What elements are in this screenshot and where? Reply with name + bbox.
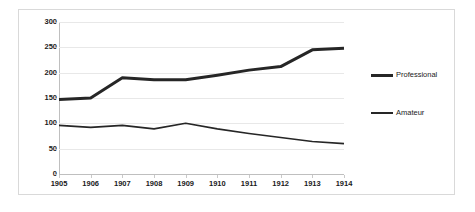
series-lines (59, 22, 344, 174)
x-tick-label-1905: 1905 (44, 180, 74, 188)
x-tick-label-1911: 1911 (234, 180, 264, 188)
x-tick-1914 (344, 175, 345, 178)
x-tick-1912 (281, 175, 282, 178)
x-tick-1911 (249, 175, 250, 178)
y-tick-250 (54, 47, 57, 48)
y-tick-0 (54, 174, 57, 175)
chart-legend: Professional Amateur (371, 70, 451, 146)
x-tick-label-1907: 1907 (107, 180, 137, 188)
x-axis-labels: 1905190619071908190919101911191219131914 (59, 180, 344, 192)
y-tick-200 (54, 73, 57, 74)
x-tick-label-1914: 1914 (329, 180, 359, 188)
y-tick-label-100: 100 (23, 119, 57, 127)
y-tick-100 (54, 123, 57, 124)
legend-label-professional: Professional (396, 71, 437, 79)
y-tick-label-200: 200 (23, 69, 57, 77)
series-line-professional (59, 48, 344, 99)
legend-item-professional: Professional (371, 70, 451, 80)
x-tick-label-1909: 1909 (171, 180, 201, 188)
y-tick-label-250: 250 (23, 43, 57, 51)
x-tick-label-1908: 1908 (139, 180, 169, 188)
x-tick-1906 (91, 175, 92, 178)
legend-item-amateur: Amateur (371, 108, 451, 118)
x-tick-1908 (154, 175, 155, 178)
x-tick-1910 (217, 175, 218, 178)
chart-container: 050100150200250300 190519061907190819091… (18, 9, 455, 195)
x-tick-1909 (186, 175, 187, 178)
x-tick-label-1912: 1912 (266, 180, 296, 188)
x-tick-1905 (59, 175, 60, 178)
y-tick-label-0: 0 (23, 170, 57, 178)
y-tick-150 (54, 98, 57, 99)
legend-swatch-professional (371, 74, 393, 77)
x-tick-label-1913: 1913 (297, 180, 327, 188)
y-axis-labels: 050100150200250300 (19, 22, 57, 174)
y-tick-label-150: 150 (23, 94, 57, 102)
y-tick-label-50: 50 (23, 145, 57, 153)
y-tick-label-300: 300 (23, 18, 57, 26)
plot-area (59, 22, 344, 174)
x-tick-label-1906: 1906 (76, 180, 106, 188)
series-line-amateur (59, 123, 344, 143)
x-tick-label-1910: 1910 (202, 180, 232, 188)
legend-label-amateur: Amateur (396, 109, 424, 117)
x-axis-ticks (59, 175, 344, 179)
y-tick-300 (54, 22, 57, 23)
x-tick-1913 (312, 175, 313, 178)
y-tick-50 (54, 149, 57, 150)
legend-swatch-amateur (371, 112, 393, 114)
x-tick-1907 (122, 175, 123, 178)
